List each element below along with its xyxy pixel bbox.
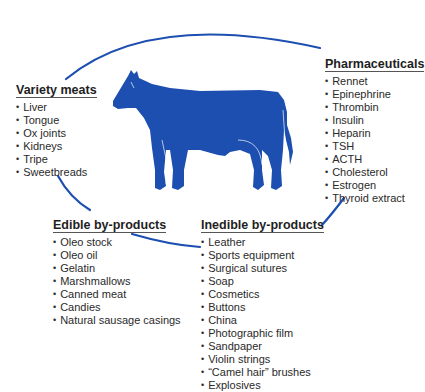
list-item: Liver xyxy=(16,101,97,114)
list-item: Rennet xyxy=(325,75,424,88)
list-item: Natural sausage casings xyxy=(53,314,181,327)
list-item: Candies xyxy=(53,301,181,314)
group-variety-meats: Variety meats Liver Tongue Ox joints Kid… xyxy=(16,80,97,179)
list-item: Gelatin xyxy=(53,262,181,275)
list-item: Kidneys xyxy=(16,140,97,153)
group-edible-by-products: Edible by-products Oleo stock Oleo oil G… xyxy=(53,215,181,327)
item-list: Oleo stock Oleo oil Gelatin Marshmallows… xyxy=(53,236,181,327)
list-item: Leather xyxy=(201,236,324,249)
list-item: Sports equipment xyxy=(201,249,324,262)
list-item: ACTH xyxy=(325,153,424,166)
group-inedible-by-products: Inedible by-products Leather Sports equi… xyxy=(201,215,324,392)
list-item: Sweetbreads xyxy=(16,166,97,179)
list-item: Cholesterol xyxy=(325,166,424,179)
item-list: Leather Sports equipment Surgical suture… xyxy=(201,236,324,392)
item-list: Liver Tongue Ox joints Kidneys Tripe Swe… xyxy=(16,101,97,179)
item-list: Rennet Epinephrine Thrombin Insulin Hepa… xyxy=(325,75,424,205)
group-title: Variety meats xyxy=(16,83,97,98)
list-item: Canned meat xyxy=(53,288,181,301)
group-title: Edible by-products xyxy=(53,218,166,233)
list-item: TSH xyxy=(325,140,424,153)
list-item: Thyroid extract xyxy=(325,192,424,205)
list-item: Marshmallows xyxy=(53,275,181,288)
list-item: Epinephrine xyxy=(325,88,424,101)
list-item: Tripe xyxy=(16,153,97,166)
list-item: Oleo stock xyxy=(53,236,181,249)
list-item: Explosives xyxy=(201,379,324,392)
list-item: Ox joints xyxy=(16,127,97,140)
list-item: Thrombin xyxy=(325,101,424,114)
list-item: Oleo oil xyxy=(53,249,181,262)
list-item: Surgical sutures xyxy=(201,262,324,275)
list-item: Photographic film xyxy=(201,327,324,340)
list-item: Heparin xyxy=(325,127,424,140)
list-item: Insulin xyxy=(325,114,424,127)
list-item: Cosmetics xyxy=(201,288,324,301)
group-title: Pharmaceuticals xyxy=(325,57,424,72)
list-item: China xyxy=(201,314,324,327)
list-item: “Camel hair” brushes xyxy=(201,366,324,379)
list-item: Soap xyxy=(201,275,324,288)
list-item: Buttons xyxy=(201,301,324,314)
list-item: Estrogen xyxy=(325,179,424,192)
list-item: Sandpaper xyxy=(201,340,324,353)
group-pharmaceuticals: Pharmaceuticals Rennet Epinephrine Throm… xyxy=(325,54,424,205)
list-item: Violin strings xyxy=(201,353,324,366)
group-title: Inedible by-products xyxy=(201,218,324,233)
list-item: Tongue xyxy=(16,114,97,127)
